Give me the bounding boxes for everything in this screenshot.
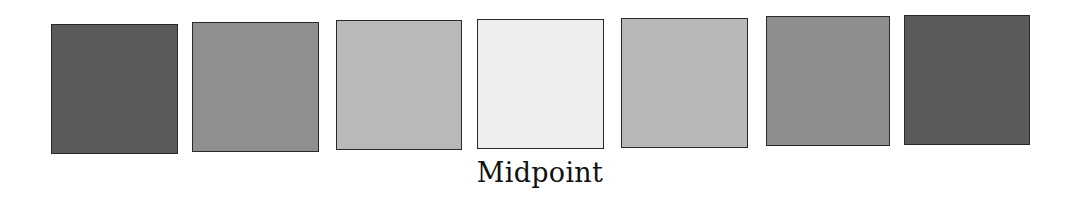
- swatch-midpoint: [477, 19, 604, 149]
- swatch-medium-right: [766, 16, 890, 146]
- swatch-light-right: [621, 18, 748, 148]
- midpoint-label: Midpoint: [0, 157, 1073, 188]
- swatch-light-left: [336, 20, 462, 150]
- swatch-medium-left: [192, 22, 319, 152]
- swatch-dark-left: [51, 24, 178, 154]
- swatch-dark-right: [904, 15, 1030, 145]
